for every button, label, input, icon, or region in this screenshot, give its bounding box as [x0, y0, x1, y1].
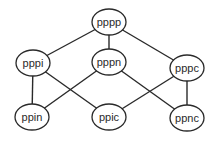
node-label: ppnc	[175, 112, 199, 124]
node-pppp: pppp	[92, 9, 126, 35]
nodes-group: pppppppipppnpppcppinppicppnc	[15, 9, 204, 131]
node-label: ppic	[99, 111, 120, 123]
node-label: ppin	[22, 111, 43, 123]
node-label: pppi	[23, 57, 44, 69]
node-label: pppc	[175, 62, 199, 74]
node-pppn: pppn	[92, 49, 126, 75]
node-pppi: pppi	[16, 50, 50, 76]
lattice-diagram: pppppppipppnpppcppinppicppnc	[0, 0, 218, 142]
node-pppc: pppc	[170, 55, 204, 81]
node-label: pppp	[97, 16, 121, 28]
node-ppic: ppic	[92, 104, 126, 130]
node-ppnc: ppnc	[170, 105, 204, 131]
node-label: pppn	[97, 56, 121, 68]
node-ppin: ppin	[15, 104, 49, 130]
